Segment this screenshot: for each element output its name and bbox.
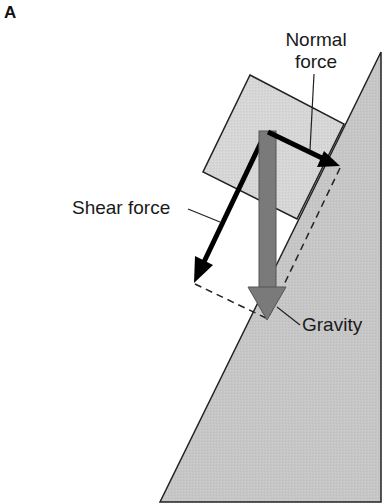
shear-force-leader — [188, 209, 220, 222]
normal-force-label-line1: Normal — [282, 29, 350, 51]
diagram-canvas — [0, 0, 384, 504]
normal-force-label-line2: force — [282, 51, 350, 73]
force-diagram: A Normal force Shear force Gravity — [0, 0, 384, 504]
panel-label: A — [4, 4, 16, 21]
shear-force-label: Shear force — [72, 198, 170, 217]
normal-force-label: Normal force — [282, 29, 350, 73]
gravity-label: Gravity — [302, 315, 362, 334]
